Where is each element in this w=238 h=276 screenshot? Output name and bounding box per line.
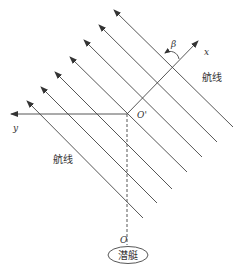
angle-arc — [165, 51, 179, 59]
x-axis-label: x — [204, 47, 209, 57]
submarine-label: 潜艇 — [118, 249, 138, 261]
track-line — [27, 101, 143, 218]
y-axis-label: y — [12, 123, 19, 133]
origin-prime-label: O' — [137, 110, 147, 120]
x-axis — [127, 41, 198, 114]
track-line — [70, 57, 187, 172]
angle-label: β — [170, 39, 176, 49]
origin-label: O — [120, 235, 128, 245]
track-line-label-right: 航线 — [202, 71, 222, 83]
track-line — [99, 25, 217, 142]
track-line — [55, 72, 172, 189]
diagram-canvas: β x y O' O 航线 航线 潜艇 — [0, 0, 238, 276]
track-line — [41, 87, 157, 203]
track-line-label-left: 航线 — [53, 153, 73, 165]
track-line — [84, 40, 202, 157]
